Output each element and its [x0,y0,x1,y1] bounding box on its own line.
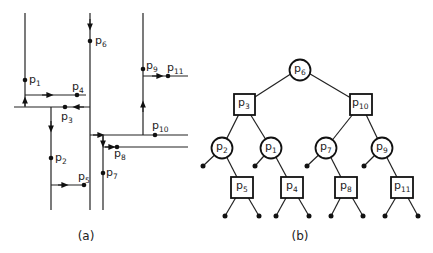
figure-canvas: p1 p4 p3 p2 p5 p6 p9 p11 p10 p7 p8 (a) [0,0,433,253]
tree-node-p7: p7 [316,138,337,159]
panel-b-tree-diagram: p6 p3 p10 p2 p1 p7 p9 p5 [201,60,421,244]
tree-node-p10: p10 [350,94,372,115]
label-p7: p7 [106,166,118,181]
point-p6 [88,39,93,44]
point-p3 [63,105,68,110]
point-p10 [153,133,158,138]
caption-a: (a) [78,229,95,243]
caption-b: (b) [292,229,309,243]
tree-node-p11: p11 [391,177,413,198]
label-p8: p8 [114,147,126,162]
point-p11 [166,74,171,79]
label-p2: p2 [55,151,67,166]
panel-a-segment-diagram: p1 p4 p3 p2 p5 p6 p9 p11 p10 p7 p8 (a) [14,13,188,243]
point-p9 [141,67,146,72]
tree-node-p3: p3 [234,94,255,115]
label-p1: p1 [29,73,41,88]
point-p1 [23,78,28,83]
tree-node-p6: p6 [290,60,311,81]
tree-node-p8: p8 [335,177,357,198]
tree-node-p9: p9 [372,138,393,159]
point-p2 [49,156,54,161]
tree-node-p5: p5 [231,177,253,198]
label-p3: p3 [61,110,73,125]
label-p4: p4 [72,80,84,95]
label-p5: p5 [78,170,90,185]
tree-node-p2: p2 [212,138,233,159]
tree-node-p1: p1 [261,138,282,159]
label-p6: p6 [95,34,107,49]
tree-node-p4: p4 [281,177,303,198]
label-p10: p10 [152,119,169,134]
label-p11: p11 [167,61,184,76]
label-p9: p9 [146,59,158,74]
point-p7 [101,171,106,176]
